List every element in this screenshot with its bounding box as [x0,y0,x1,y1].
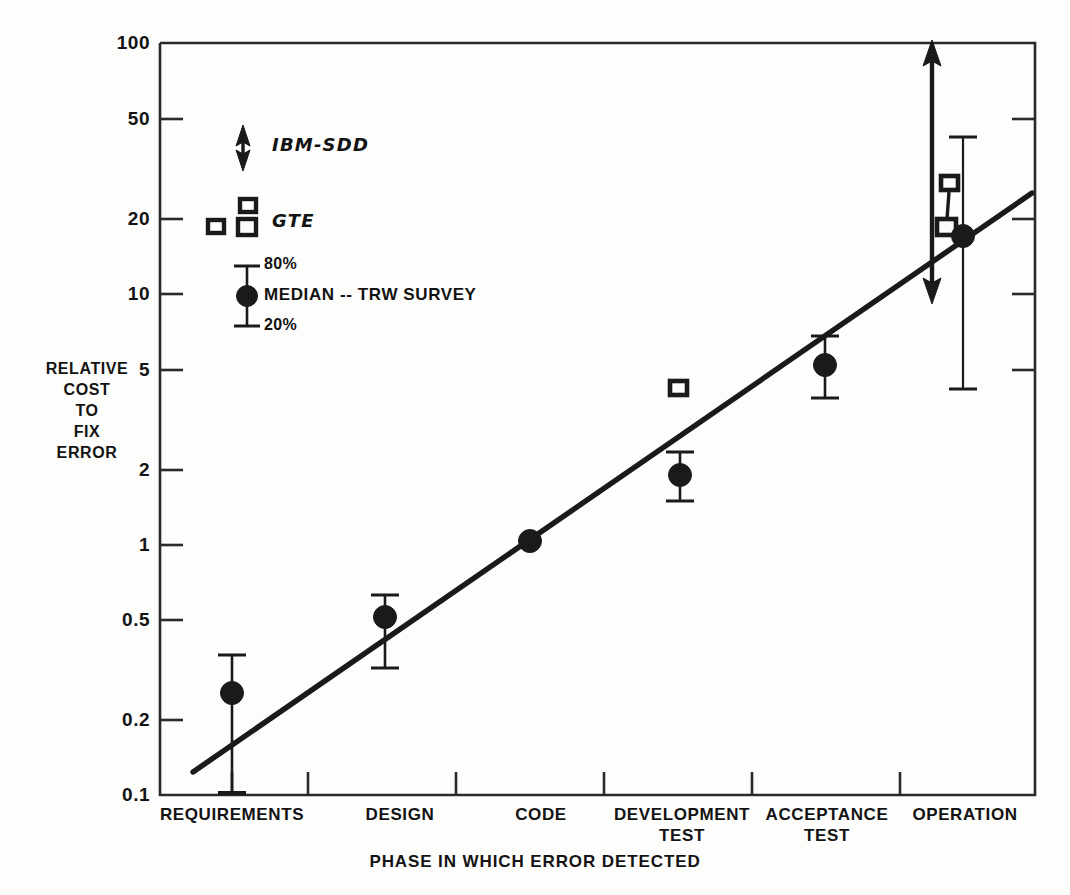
legend-marker-ibm-sdd [236,125,250,171]
trend-line [193,193,1032,772]
data-point-requirements [218,655,246,795]
chart-figure: 100 50 20 10 5 2 1 0.5 0.2 0.1 RELATIVE … [0,0,1070,895]
x-tick-acceptance-test: ACCEPTANCE TEST [766,805,889,846]
data-point-development-test [666,452,694,501]
y-tick-marks [160,119,183,720]
plot-canvas [0,0,1070,895]
gte-marker-operation-upper [941,176,958,190]
legend-label-20pct: 20% [264,316,297,334]
legend-label-80pct: 80% [264,255,297,273]
x-tick-design: DESIGN [366,805,435,826]
legend-label-trw-median: MEDIAN -- TRW SURVEY [264,285,477,305]
x-axis-title: PHASE IN WHICH ERROR DETECTED [0,852,1070,872]
legend-marker-trw [234,266,260,326]
gte-connector-operation [947,192,949,219]
legend-markers [208,125,260,326]
series-trw-survey [218,137,977,795]
legend-label-gte: GTE [272,210,315,231]
legend-label-ibm-sdd: IBM-SDD [272,134,369,155]
y-tick-marks-right [1012,119,1035,370]
data-point-code [519,530,542,553]
x-tick-marks [232,772,900,795]
x-tick-code: CODE [515,805,567,826]
gte-marker-development-test [670,381,687,395]
x-tick-development-test: DEVELOPMENT TEST [614,805,750,846]
x-tick-requirements: REQUIREMENTS [160,805,304,826]
axis-frame [160,43,1035,795]
legend-marker-gte [208,199,256,235]
x-tick-operation: OPERATION [912,805,1017,826]
